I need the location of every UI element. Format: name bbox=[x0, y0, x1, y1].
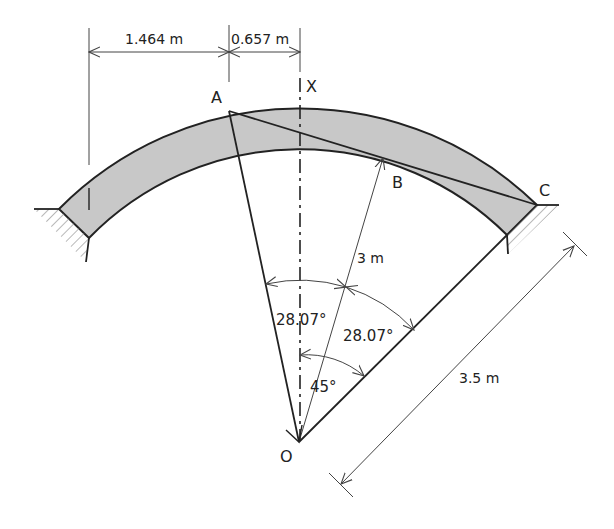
label-angle-AOB: 28.07° bbox=[276, 311, 326, 329]
label-dim-3m: 3 m bbox=[357, 250, 384, 266]
label-dim-0-657m: 0.657 m bbox=[231, 31, 289, 47]
label-point-A: A bbox=[211, 88, 222, 107]
label-point-B: B bbox=[392, 173, 403, 192]
label-dim-3-5m: 3.5 m bbox=[459, 370, 499, 386]
radius-OC bbox=[299, 235, 507, 442]
label-point-C: C bbox=[539, 181, 550, 200]
label-angle-XOC: 45° bbox=[310, 378, 337, 396]
arch-diagram: A X B C O 1.464 m 0.657 m 3 m 3.5 m 28.0… bbox=[0, 0, 614, 529]
label-dim-1-464m: 1.464 m bbox=[125, 31, 183, 47]
dimension-3-5m bbox=[329, 232, 587, 497]
label-angle-BOC: 28.07° bbox=[343, 327, 393, 345]
label-point-O: O bbox=[280, 447, 293, 466]
arch-ring bbox=[59, 108, 537, 238]
label-point-X: X bbox=[306, 77, 317, 96]
radius-OA bbox=[229, 111, 299, 442]
